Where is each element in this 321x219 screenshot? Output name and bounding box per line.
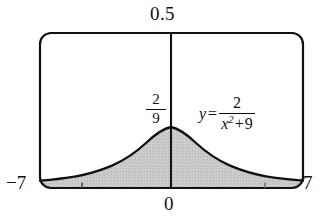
curve-maximum-label: 2 9 [146,92,166,127]
equation-fraction-bar [219,113,255,114]
x-axis-max-label: 7 [303,173,313,192]
equation-denominator-exponent: 2 [228,112,233,124]
equation-equals-sign: = [208,106,217,122]
curve-maximum-numerator: 2 [146,92,166,108]
graph-figure: 0.5 0 −7 7 2 9 y = 2 x2+9 [0,0,321,219]
equation-denominator: x2+9 [219,115,255,133]
equation-denominator-operator: + [235,115,244,132]
equation-lhs: y [199,106,206,122]
function-equation-label: y = 2 x2+9 [199,95,255,132]
curve-maximum-denominator: 9 [146,111,166,127]
x-axis-origin-label: 0 [164,194,174,213]
equation-denominator-constant: 9 [245,115,253,132]
equation-numerator: 2 [230,95,244,112]
y-axis-max-label: 0.5 [150,4,175,23]
equation-fraction: 2 x2+9 [219,95,255,132]
x-axis-min-label: −7 [6,173,26,192]
